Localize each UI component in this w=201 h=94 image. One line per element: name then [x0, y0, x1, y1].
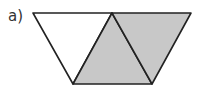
- trapezoid-figure: [0, 0, 201, 94]
